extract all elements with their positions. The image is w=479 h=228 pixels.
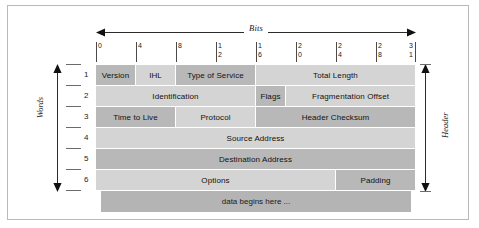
bit-label-31: 31 xyxy=(409,41,415,59)
field-label: Destination Address xyxy=(219,155,292,164)
packet-row-word-6: OptionsPadding xyxy=(96,170,416,191)
field-label: Identification xyxy=(152,92,198,101)
field-identification: Identification xyxy=(96,86,256,107)
bit-label-20: 20 xyxy=(296,41,302,59)
bit-label-12: 12 xyxy=(216,41,222,59)
field-protocol: Protocol xyxy=(176,107,256,128)
field-header-checksum: Header Checksum xyxy=(256,107,416,128)
word-tick-0 xyxy=(66,64,81,65)
field-source-address: Source Address xyxy=(96,128,416,149)
field-label: Header Checksum xyxy=(302,113,370,122)
word-number-5: 5 xyxy=(84,154,88,164)
bit-label-0: 0 xyxy=(96,41,102,50)
field-version: Version xyxy=(96,65,136,86)
word-tick-6 xyxy=(66,190,81,191)
word-number-2: 2 xyxy=(84,91,88,101)
word-tick-1 xyxy=(66,85,81,86)
field-label: Options xyxy=(201,176,229,185)
figure-frame: Bits 048121620242831 Words 123456 Header… xyxy=(7,5,469,220)
field-label: Total Length xyxy=(313,71,358,80)
field-label: IHL xyxy=(149,71,162,80)
word-tick-5 xyxy=(66,169,81,170)
packet-field-grid: VersionIHLType of ServiceTotal LengthIde… xyxy=(96,65,416,191)
field-fragmentation-offset: Fragmentation Offset xyxy=(286,86,416,107)
bits-axis-label: Bits xyxy=(244,24,268,33)
field-label: Padding xyxy=(360,176,390,185)
word-tick-4 xyxy=(66,148,81,149)
word-number-3: 3 xyxy=(84,112,88,122)
packet-row-word-4: Source Address xyxy=(96,128,416,149)
bit-ruler: Bits 048121620242831 xyxy=(96,20,416,64)
word-number-4: 4 xyxy=(84,133,88,143)
data-begins-row: data begins here ... xyxy=(101,191,411,212)
field-destination-address: Destination Address xyxy=(96,149,416,170)
bit-tick-31 xyxy=(415,42,416,62)
field-ihl: IHL xyxy=(136,65,176,86)
field-options: Options xyxy=(96,170,336,191)
field-label: Fragmentation Offset xyxy=(312,92,389,101)
field-label: Time to Live xyxy=(113,113,157,122)
packet-row-word-1: VersionIHLType of ServiceTotal Length xyxy=(96,65,416,86)
bit-label-24: 24 xyxy=(336,41,342,59)
field-type-of-service: Type of Service xyxy=(176,65,256,86)
field-label: Type of Service xyxy=(187,71,244,80)
bit-label-28: 28 xyxy=(376,41,382,59)
word-tick-3 xyxy=(66,127,81,128)
bit-label-16: 16 xyxy=(256,41,262,59)
field-padding: Padding xyxy=(336,170,416,191)
header-bracket-label: Header xyxy=(441,113,450,139)
field-label: Flags xyxy=(260,92,280,101)
header-double-arrow xyxy=(420,64,431,192)
words-double-arrow xyxy=(52,64,63,192)
field-label: Protocol xyxy=(200,113,230,122)
packet-row-word-2: IdentificationFlagsFragmentation Offset xyxy=(96,86,416,107)
data-begins-label: data begins here ... xyxy=(222,197,291,206)
field-label: Version xyxy=(102,71,129,80)
field-total-length: Total Length xyxy=(256,65,416,86)
field-label: Source Address xyxy=(227,134,285,143)
word-number-1: 1 xyxy=(84,70,88,80)
bit-label-8: 8 xyxy=(176,41,182,50)
field-time-to-live: Time to Live xyxy=(96,107,176,128)
packet-row-word-5: Destination Address xyxy=(96,149,416,170)
word-number-6: 6 xyxy=(84,175,88,185)
bit-label-4: 4 xyxy=(136,41,142,50)
packet-row-word-3: Time to LiveProtocolHeader Checksum xyxy=(96,107,416,128)
word-tick-2 xyxy=(66,106,81,107)
words-axis-label: Words xyxy=(36,97,45,118)
field-flags: Flags xyxy=(256,86,286,107)
